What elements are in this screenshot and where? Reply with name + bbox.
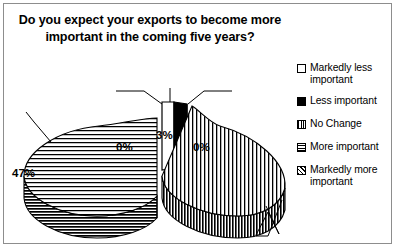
legend-swatch-horizontal-stripes-square-icon [297,143,306,152]
pie-chart-svg [4,58,290,244]
legend-swatch-empty-square-icon [297,64,306,73]
legend-item-no-change: No Change [297,118,393,132]
data-label-more-important: 47% [12,168,35,180]
chart-title-line-2: important in the coming five years? [14,29,286,46]
data-label-markedly-less-important: 0% [116,142,133,154]
legend-label-less-important: Less important [310,95,377,107]
legend-swatch-vertical-stripes-square-icon [297,120,306,129]
chart-legend: Markedly less important Less important N… [297,62,393,196]
data-label-less-important: 3% [156,130,173,142]
chart-page: Do you expect your exports to become mor… [0,0,397,249]
pie-slice-more-important [24,118,157,238]
legend-item-more-important: More important [297,141,393,155]
legend-item-less-important: Less important [297,95,393,109]
legend-swatch-solid-black-square-icon [297,97,306,106]
chart-title-line-1: Do you expect your exports to become mor… [14,12,286,29]
chart-title: Do you expect your exports to become mor… [14,12,286,45]
legend-label-no-change: No Change [310,118,362,130]
legend-swatch-diagonal-hatch-square-icon [297,166,306,175]
legend-label-markedly-less-important: Markedly less important [310,62,393,86]
legend-label-more-important: More important [310,141,378,153]
legend-label-markedly-more-important: Markedly more important [310,164,393,188]
legend-item-markedly-less-important: Markedly less important [297,62,393,86]
pie-chart-plot-area: 47% 0% 3% 0% 50% [4,58,290,244]
data-label-no-change: 0% [193,142,210,154]
legend-item-markedly-more-important: Markedly more important [297,164,393,188]
